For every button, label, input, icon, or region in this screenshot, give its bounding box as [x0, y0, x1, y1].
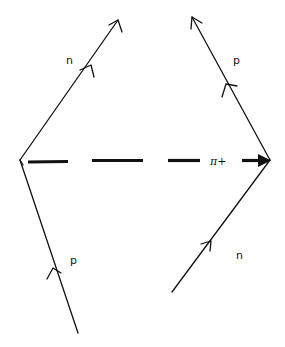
label-bottom-right: n	[236, 249, 243, 262]
feynman-diagram: n p p n π+	[0, 0, 285, 347]
arrow-right-icon	[258, 154, 271, 167]
incoming-neutron-line-right	[172, 160, 270, 292]
pion-exchange-line	[28, 161, 262, 163]
outgoing-neutron-line-left	[20, 20, 122, 165]
label-bottom-left: p	[70, 254, 77, 267]
label-top-right: p	[233, 54, 240, 67]
incoming-proton-line-left	[20, 160, 78, 333]
outgoing-proton-line-right	[191, 17, 270, 160]
label-top-left: n	[66, 54, 73, 67]
label-exchange: π+	[209, 155, 226, 168]
